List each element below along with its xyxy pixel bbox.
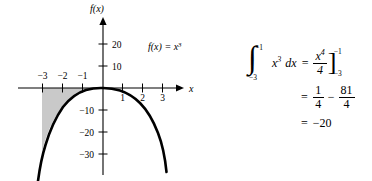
- integral-sign: ∫ −1 −3: [248, 46, 261, 80]
- equation-line-1: ∫ −1 −3 x3 dx = x4 4 ] −1 −3: [248, 46, 372, 80]
- y-tick-label--10: −10: [79, 106, 94, 116]
- x-tick-label-2: 2: [140, 93, 145, 103]
- equals-sign-2: =: [301, 90, 308, 105]
- graph-figure: f(x) x −3 −2 −1 1 2 3 20 10 −10 −20 −30 …: [0, 0, 200, 181]
- integral-lower-limit: −3: [249, 74, 257, 82]
- y-tick-label--30: −30: [79, 150, 94, 160]
- integral-upper-limit: −1: [255, 44, 263, 52]
- y-tick-label-10: 10: [112, 62, 122, 72]
- equation-line-3: = −20: [296, 116, 372, 131]
- antiderivative-numerator: x4: [313, 49, 326, 63]
- x-tick-label--2: −2: [57, 71, 67, 81]
- integrand: x3: [272, 55, 281, 71]
- x-tick-label-3: 3: [160, 93, 165, 103]
- x-tick-label-1: 1: [120, 93, 125, 103]
- figure-page: f(x) x −3 −2 −1 1 2 3 20 10 −10 −20 −30 …: [0, 0, 372, 181]
- evaluation-bracket: ] −1 −3: [328, 48, 344, 78]
- y-axis-label: f(x): [90, 3, 105, 15]
- equals-sign-3: =: [301, 116, 308, 131]
- second-fraction-denominator: 4: [342, 98, 352, 111]
- x-tick-label--3: −3: [37, 71, 47, 81]
- integrand-exponent: 3: [277, 55, 281, 64]
- integral-result: −20: [313, 116, 332, 131]
- x-axis-label: x: [188, 83, 194, 94]
- y-tick-label--20: −20: [79, 128, 94, 138]
- bracket-lower-limit: −3: [334, 69, 342, 78]
- bracket-upper-limit: −1: [334, 47, 342, 56]
- antiderivative-num-exponent: 4: [321, 48, 325, 57]
- equation-line-2: = 1 4 − 81 4: [296, 84, 372, 110]
- first-fraction-denominator: 4: [313, 98, 323, 111]
- second-fraction-numerator: 81: [339, 84, 355, 97]
- y-axis-arrow: [99, 17, 106, 25]
- curve-equation-label: f(x) = x3: [148, 41, 182, 54]
- minus-operator: −: [328, 90, 335, 105]
- equals-sign-1: =: [302, 56, 309, 71]
- first-fraction-numerator: 1: [313, 84, 323, 97]
- differential: dx: [285, 56, 296, 71]
- y-tick-label-20: 20: [112, 40, 122, 50]
- x-axis-arrow: [176, 84, 184, 91]
- first-fraction: 1 4: [313, 84, 324, 110]
- x-tick-label--1: −1: [77, 71, 87, 81]
- second-fraction: 81 4: [339, 84, 355, 110]
- antiderivative-fraction: x4 4: [313, 49, 326, 76]
- equation-block: ∫ −1 −3 x3 dx = x4 4 ] −1 −3 = 1: [248, 46, 372, 131]
- antiderivative-denominator: 4: [315, 64, 325, 77]
